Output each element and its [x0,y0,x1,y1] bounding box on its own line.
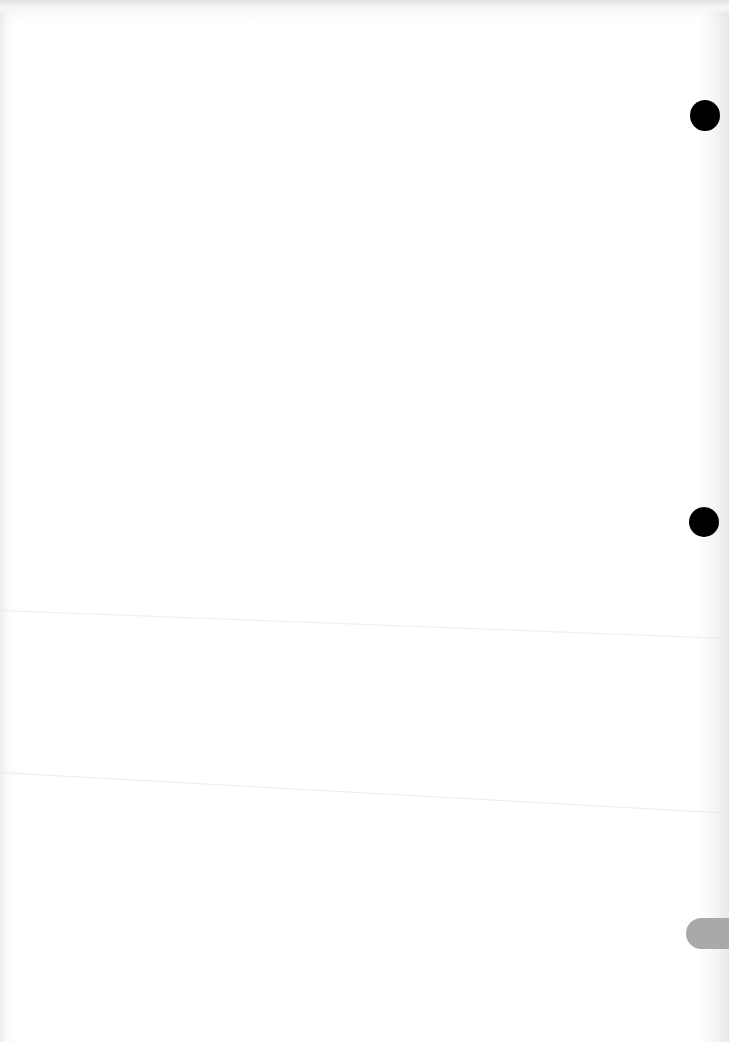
punch-hole-middle [689,507,719,537]
scan-artifact-line [0,610,728,639]
edge-tab-marker [686,918,729,949]
page-top-edge-shadow [0,0,729,14]
scanned-page [0,0,729,1042]
scan-artifact-line [0,772,728,814]
punch-hole-top [690,100,720,131]
